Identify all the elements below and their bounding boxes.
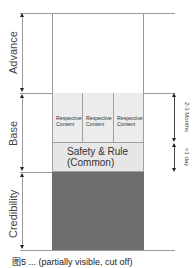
figure-caption: 图5 ... (partially visible, cut off)	[12, 255, 132, 268]
credibility-label: Credibility	[7, 190, 19, 238]
base-axis-line	[22, 95, 23, 170]
base-label: Base	[7, 121, 19, 146]
common-label: (Common)	[67, 157, 143, 168]
respective-content-box-3: Respective Content	[114, 93, 144, 142]
arrow-up-icon	[20, 173, 24, 177]
arrow-up-icon	[20, 13, 24, 17]
arrow-up-icon	[172, 93, 176, 97]
credibility-axis-line	[22, 174, 23, 248]
arrow-down-icon	[20, 245, 24, 249]
arrow-up-icon	[172, 143, 176, 147]
advance-label: Advance	[7, 31, 19, 74]
respective-content-label: Respective Content	[56, 115, 82, 127]
arrow-down-icon	[172, 168, 176, 172]
arrow-down-icon	[20, 167, 24, 171]
respective-content-label: Respective Content	[117, 115, 143, 127]
safety-rule-label: Safety & Rule	[67, 146, 143, 157]
arrow-up-icon	[20, 94, 24, 98]
respective-content-label: Respective Content	[86, 115, 112, 127]
credibility-block	[52, 172, 144, 250]
arrow-down-icon	[20, 88, 24, 92]
duration-axis-line-day	[174, 144, 175, 170]
advance-region	[52, 13, 144, 93]
duration-axis-line-months	[174, 95, 175, 140]
bottom-boundary-line	[20, 250, 175, 251]
safety-rule-common-box: Safety & Rule (Common)	[52, 142, 144, 172]
respective-content-box-1: Respective Content	[52, 93, 83, 142]
arrow-down-icon	[172, 138, 176, 142]
respective-content-box-2: Respective Content	[83, 93, 114, 142]
duration-day-label: <1 day	[184, 148, 190, 166]
advance-axis-line	[22, 15, 23, 91]
duration-months-label: 2-3 Months	[184, 102, 190, 132]
